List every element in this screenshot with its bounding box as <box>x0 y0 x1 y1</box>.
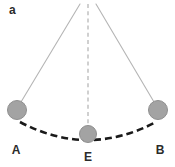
position-label-e: E <box>78 151 98 163</box>
panel-letter-label: a <box>9 4 16 16</box>
pendulum-bob-e <box>80 126 97 143</box>
position-label-b: B <box>150 144 170 156</box>
pendulum-diagram-canvas <box>0 0 175 167</box>
string-to-bob-a <box>21 4 80 102</box>
pendulum-bob-b <box>149 101 168 120</box>
pendulum-bob-a <box>8 101 27 120</box>
position-label-a: A <box>6 144 26 156</box>
pendulum-figure: a A E B <box>0 0 175 167</box>
string-to-bob-b <box>96 4 154 102</box>
